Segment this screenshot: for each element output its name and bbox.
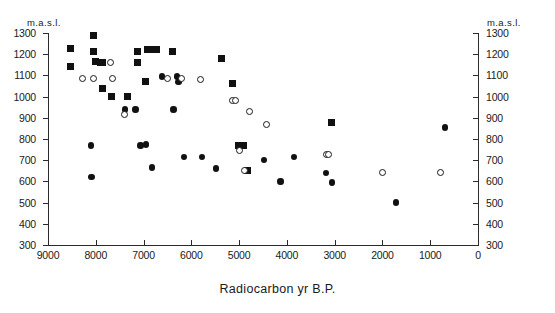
data-point-open-circle bbox=[164, 75, 171, 82]
data-point-open-circle bbox=[232, 97, 239, 104]
x-tick-label: 0 bbox=[454, 250, 502, 261]
y-tick-right bbox=[473, 181, 479, 182]
data-point-open-circle bbox=[79, 75, 86, 82]
y-tick-label-right: 1200 bbox=[486, 49, 530, 60]
data-point-filled-circle bbox=[213, 165, 220, 172]
data-point-open-circle bbox=[263, 121, 270, 128]
data-point-filled-circle bbox=[143, 141, 150, 148]
y-tick-right bbox=[473, 75, 479, 76]
y-tick-label-right: 300 bbox=[486, 240, 530, 251]
data-point-open-circle bbox=[246, 108, 253, 115]
x-tick bbox=[382, 240, 383, 246]
x-tick-label: 4000 bbox=[263, 250, 311, 261]
y-tick-label-right: 800 bbox=[486, 134, 530, 145]
x-tick-label: 1000 bbox=[406, 250, 454, 261]
data-point-open-circle bbox=[90, 75, 97, 82]
data-point-filled-square bbox=[146, 46, 153, 53]
data-point-filled-circle bbox=[88, 174, 95, 181]
y-tick-right bbox=[473, 33, 479, 34]
x-tick bbox=[239, 240, 240, 246]
data-point-filled-circle bbox=[88, 142, 95, 149]
y-tick-right bbox=[473, 203, 479, 204]
data-point-open-circle bbox=[107, 59, 114, 66]
data-point-filled-square bbox=[124, 93, 131, 100]
y-tick-left bbox=[43, 54, 49, 55]
data-point-filled-square bbox=[328, 119, 335, 126]
y-tick-label-right: 600 bbox=[486, 176, 530, 187]
data-point-open-circle bbox=[197, 76, 204, 83]
y-tick-label-left: 1300 bbox=[0, 28, 36, 39]
x-tick-label: 3000 bbox=[311, 250, 359, 261]
data-point-open-circle bbox=[236, 147, 243, 154]
data-point-filled-square bbox=[153, 46, 160, 53]
y-tick-right bbox=[473, 224, 479, 225]
data-point-filled-circle bbox=[277, 178, 284, 185]
x-tick-label: 5000 bbox=[215, 250, 263, 261]
x-tick-label: 9000 bbox=[24, 250, 72, 261]
data-point-filled-square bbox=[218, 55, 225, 62]
data-point-open-circle bbox=[178, 75, 185, 82]
x-tick-label: 2000 bbox=[358, 250, 406, 261]
y-tick-label-right: 900 bbox=[486, 113, 530, 124]
y-tick-left bbox=[43, 181, 49, 182]
x-tick bbox=[48, 240, 49, 246]
x-tick bbox=[430, 240, 431, 246]
scatter-chart-figure: m.a.s.l. m.a.s.l. 3004005006007008009001… bbox=[0, 0, 555, 313]
data-point-filled-circle bbox=[442, 124, 449, 131]
y-tick-right bbox=[473, 160, 479, 161]
x-axis-title: Radiocarbon yr B.P. bbox=[0, 282, 555, 296]
y-tick-right bbox=[473, 54, 479, 55]
data-point-open-circle bbox=[109, 75, 116, 82]
y-tick-label-left: 800 bbox=[0, 134, 36, 145]
data-point-filled-circle bbox=[329, 179, 336, 186]
y-tick-label-right: 400 bbox=[486, 219, 530, 230]
y-tick-label-right: 1100 bbox=[486, 70, 530, 81]
x-tick bbox=[144, 240, 145, 246]
y-tick-label-left: 1200 bbox=[0, 49, 36, 60]
x-tick-label: 6000 bbox=[167, 250, 215, 261]
data-point-filled-circle bbox=[132, 106, 139, 113]
x-tick bbox=[335, 240, 336, 246]
data-point-filled-circle bbox=[261, 157, 268, 164]
y-tick-left bbox=[43, 203, 49, 204]
x-tick bbox=[96, 240, 97, 246]
y-tick-left bbox=[43, 97, 49, 98]
y-tick-left bbox=[43, 75, 49, 76]
data-point-open-circle bbox=[379, 169, 386, 176]
y-tick-right bbox=[473, 118, 479, 119]
y-tick-label-left: 1000 bbox=[0, 92, 36, 103]
y-tick-left bbox=[43, 224, 49, 225]
x-tick-label: 7000 bbox=[120, 250, 168, 261]
data-point-filled-square bbox=[134, 59, 141, 66]
y-tick-label-right: 500 bbox=[486, 198, 530, 209]
data-point-filled-circle bbox=[199, 154, 206, 161]
y-tick-label-right: 700 bbox=[486, 155, 530, 166]
x-tick-label: 8000 bbox=[72, 250, 120, 261]
data-point-filled-circle bbox=[323, 170, 330, 177]
x-tick bbox=[287, 240, 288, 246]
data-point-open-circle bbox=[121, 111, 128, 118]
data-point-filled-square bbox=[67, 45, 74, 52]
data-point-filled-square bbox=[142, 78, 149, 85]
data-point-filled-square bbox=[99, 85, 106, 92]
y-tick-label-left: 300 bbox=[0, 240, 36, 251]
y-tick-label-left: 700 bbox=[0, 155, 36, 166]
data-point-filled-circle bbox=[170, 106, 177, 113]
data-point-open-circle bbox=[325, 151, 332, 158]
x-tick bbox=[478, 240, 479, 246]
y-tick-left bbox=[43, 118, 49, 119]
data-point-filled-square bbox=[134, 48, 141, 55]
y-tick-left bbox=[43, 33, 49, 34]
y-tick-label-right: 1000 bbox=[486, 92, 530, 103]
x-axis bbox=[48, 245, 479, 246]
y-tick-label-left: 1100 bbox=[0, 70, 36, 81]
data-point-filled-square bbox=[108, 93, 115, 100]
data-point-filled-square bbox=[90, 32, 97, 39]
data-point-filled-square bbox=[67, 63, 74, 70]
data-point-filled-circle bbox=[291, 154, 298, 161]
data-point-filled-square bbox=[169, 48, 176, 55]
y-tick-left bbox=[43, 139, 49, 140]
y-tick-left bbox=[43, 160, 49, 161]
y-tick-label-left: 900 bbox=[0, 113, 36, 124]
y-tick-right bbox=[473, 97, 479, 98]
